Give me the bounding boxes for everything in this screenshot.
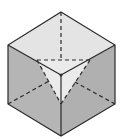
front-vertex <box>60 74 63 77</box>
cube-diagram <box>0 0 121 139</box>
